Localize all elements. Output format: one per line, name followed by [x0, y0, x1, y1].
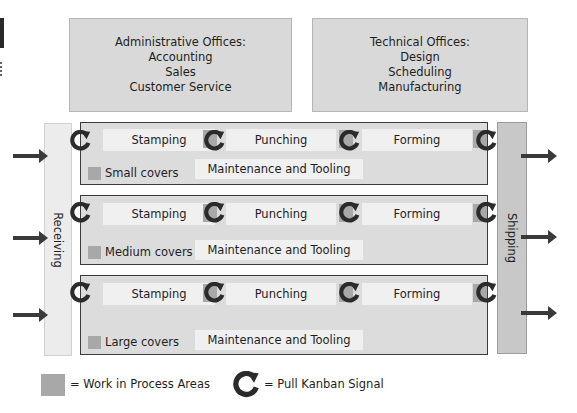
tech-item: Manufacturing	[378, 80, 461, 95]
outbound-arrow-icon	[521, 311, 549, 315]
wip-area	[88, 336, 101, 349]
admin-title: Administrative Offices:	[115, 35, 246, 50]
process-stamping: Stamping	[103, 129, 215, 151]
line-label: Small covers	[105, 164, 179, 182]
admin-item: Sales	[165, 65, 196, 80]
maintenance-tooling: Maintenance and Tooling	[195, 159, 363, 179]
kanban-signal-icon	[476, 282, 498, 304]
kanban-signal-icon	[339, 282, 361, 304]
admin-item: Customer Service	[129, 80, 231, 95]
line-label: Medium covers	[105, 243, 193, 261]
receiving-label: Receiving	[51, 212, 65, 268]
technical-offices-box: Technical Offices: Design Scheduling Man…	[312, 18, 528, 112]
kanban-legend-label: = Pull Kanban Signal	[264, 377, 384, 391]
process-punching: Punching	[226, 283, 336, 305]
kanban-signal-icon	[476, 130, 498, 152]
process-forming: Forming	[362, 283, 472, 305]
inbound-arrow-icon	[13, 313, 40, 317]
kanban-signal-icon	[70, 130, 92, 152]
process-punching: Punching	[226, 203, 336, 225]
edge-mark-dotted	[0, 62, 5, 76]
receiving-area: Receiving	[44, 123, 72, 356]
inbound-arrow-icon	[13, 236, 40, 240]
administrative-offices-box: Administrative Offices: Accounting Sales…	[69, 18, 292, 112]
inbound-arrow-icon	[13, 154, 40, 158]
kanban-signal-icon	[339, 202, 361, 224]
tech-item: Scheduling	[388, 65, 452, 80]
wip-legend-label: = Work in Process Areas	[70, 377, 210, 391]
outbound-arrow-icon	[521, 154, 549, 158]
shipping-label: Shipping	[505, 213, 519, 263]
kanban-signal-icon	[204, 202, 226, 224]
production-line-large: Stamping Punching Forming Large covers M…	[80, 275, 488, 355]
wip-area	[88, 246, 101, 259]
maintenance-tooling: Maintenance and Tooling	[195, 240, 363, 260]
line-label: Large covers	[105, 333, 179, 351]
process-stamping: Stamping	[103, 203, 215, 225]
outbound-arrow-icon	[521, 235, 549, 239]
process-forming: Forming	[362, 129, 472, 151]
process-forming: Forming	[362, 203, 472, 225]
production-line-medium: Stamping Punching Forming Medium covers …	[80, 195, 488, 265]
kanban-signal-icon	[339, 130, 361, 152]
wip-area	[88, 167, 101, 180]
tech-title: Technical Offices:	[370, 35, 470, 50]
wip-legend-swatch	[41, 374, 65, 396]
process-stamping: Stamping	[103, 283, 215, 305]
production-line-small: Stamping Punching Forming Small covers M…	[80, 122, 488, 185]
process-punching: Punching	[226, 129, 336, 151]
edge-mark	[0, 18, 4, 48]
kanban-legend-icon	[233, 371, 261, 399]
kanban-signal-icon	[476, 202, 498, 224]
kanban-signal-icon	[70, 202, 92, 224]
tech-item: Design	[400, 50, 440, 65]
kanban-signal-icon	[204, 282, 226, 304]
maintenance-tooling: Maintenance and Tooling	[195, 330, 363, 350]
kanban-signal-icon	[204, 130, 226, 152]
admin-item: Accounting	[148, 50, 212, 65]
kanban-signal-icon	[70, 282, 92, 304]
